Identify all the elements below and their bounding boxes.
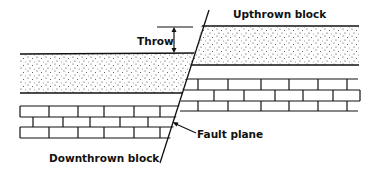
upthrown-block-label: Upthrown block	[233, 8, 327, 20]
sandstone-layer-right	[185, 26, 359, 65]
downthrown-block-label: Downthrown block	[49, 152, 160, 164]
fault-plane-pointer	[173, 122, 197, 133]
limestone-layer-right	[180, 79, 360, 111]
throw-label: Throw	[137, 35, 174, 47]
sandstone-layer-left	[20, 53, 200, 93]
downthrown-block	[20, 53, 200, 138]
upthrown-block	[180, 26, 360, 111]
fault-plane-label: Fault plane	[197, 128, 263, 140]
fault-diagram: Throw Upthrown block Downthrown block Fa…	[0, 0, 379, 175]
